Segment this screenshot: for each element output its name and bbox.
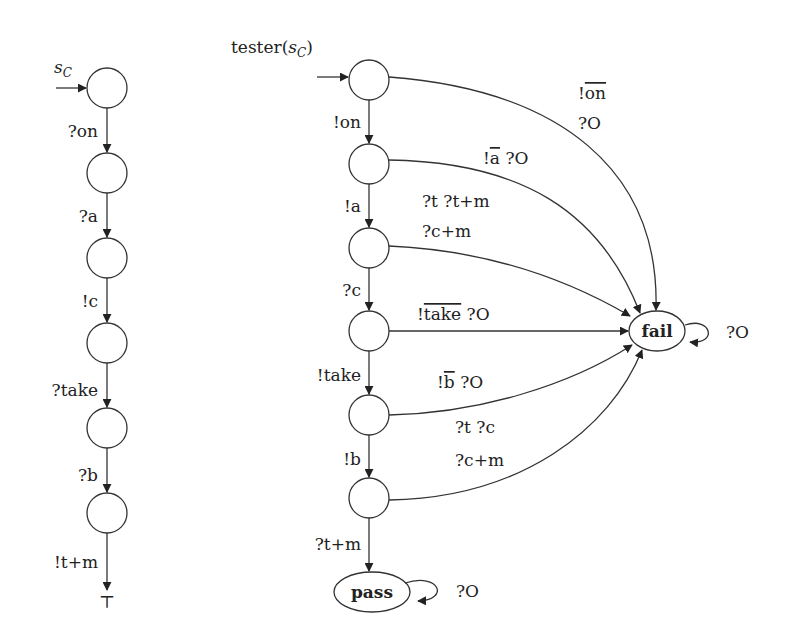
left-label-2: !c <box>82 291 98 311</box>
left-title: sC <box>54 57 72 80</box>
fail-edge-3-label: !take ?O <box>417 304 490 324</box>
right-automaton: tester(sC) !on !a ?c !take !b ?t+m pass … <box>231 37 749 612</box>
right-title: tester(sC) <box>231 37 313 60</box>
diagram-canvas: sC ?on ?a !c ?take ?b !t+m ⊤ tester(sC) <box>0 0 792 640</box>
pass-label: pass <box>351 582 393 602</box>
fail-selfloop-label: ?O <box>726 322 749 342</box>
fail-edge-4 <box>389 345 632 415</box>
fail-edge-4-label-1: !b ?O <box>437 372 483 392</box>
tester-state-1 <box>349 144 389 184</box>
fail-edge-1-label-2: ?t ?t+m <box>422 191 490 211</box>
fail-edge-4-label-2: ?t ?c <box>455 417 495 437</box>
left-label-0: ?on <box>68 121 98 141</box>
tester-label-2: ?c <box>342 280 361 300</box>
tester-label-5: ?t+m <box>315 534 361 554</box>
left-state-0 <box>87 68 127 108</box>
tester-state-2 <box>349 228 389 268</box>
left-label-5: !t+m <box>54 552 98 572</box>
fail-edge-5-label: ?c+m <box>455 450 504 470</box>
fail-label: fail <box>641 321 673 341</box>
left-automaton: sC ?on ?a !c ?take ?b !t+m ⊤ <box>52 57 127 612</box>
fail-edge-2-label: ?c+m <box>422 221 471 241</box>
left-label-3: ?take <box>52 380 98 400</box>
tester-label-3: !take <box>317 365 361 385</box>
left-state-1 <box>87 153 127 193</box>
left-state-5 <box>87 493 127 533</box>
tester-state-0 <box>349 60 389 100</box>
left-state-3 <box>87 323 127 363</box>
pass-selfloop-label: ?O <box>456 581 479 601</box>
left-label-4: ?b <box>78 465 98 485</box>
fail-selfloop <box>685 323 708 342</box>
fail-edge-1-label-1: !a ?O <box>483 148 528 168</box>
tester-state-5 <box>349 478 389 518</box>
left-state-4 <box>87 408 127 448</box>
tester-label-4: !b <box>343 449 361 469</box>
fail-edge-5 <box>389 350 642 500</box>
left-state-2 <box>87 238 127 278</box>
tester-state-3 <box>349 311 389 351</box>
tester-state-4 <box>349 395 389 435</box>
left-label-1: ?a <box>79 206 98 226</box>
tester-label-0: !on <box>333 112 361 132</box>
terminal-symbol: ⊤ <box>99 592 115 612</box>
fail-edge-0-label-2: ?O <box>578 113 601 133</box>
tester-label-1: !a <box>344 196 361 216</box>
fail-edge-0-label-1: !on <box>578 83 606 103</box>
